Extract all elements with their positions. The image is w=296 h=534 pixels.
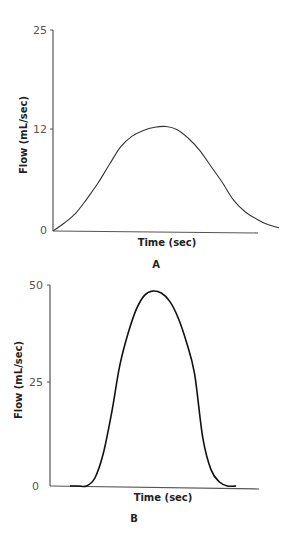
chart-b-y-label: Flow (mL/sec) [13,341,24,419]
chart-a-ytick-label: 0 [40,224,47,237]
chart-b: 50 25 0 Flow (mL/sec) Time (sec) B [13,279,259,524]
chart-a-panel-label: A [152,259,160,270]
chart-a-ytick-label: 12 [33,123,47,136]
chart-b-ytick-label: 50 [29,279,43,292]
chart-a-flow-curve [53,126,279,231]
chart-a-x-label: Time (sec) [138,237,197,248]
chart-a: 25 12 0 Flow (mL/sec) Time (sec) A [18,24,279,270]
figure: 25 12 0 Flow (mL/sec) Time (sec) A 50 25… [0,0,296,534]
chart-a-y-label: Flow (mL/sec) [18,96,29,174]
chart-b-ytick-label: 25 [29,376,43,389]
chart-b-ytick-label: 0 [32,480,39,493]
chart-b-x-label: Time (sec) [134,492,193,503]
chart-a-x-axis [53,231,258,233]
chart-a-ytick-label: 25 [33,24,47,37]
chart-b-flow-curve [70,291,236,487]
chart-b-panel-label: B [130,513,138,524]
